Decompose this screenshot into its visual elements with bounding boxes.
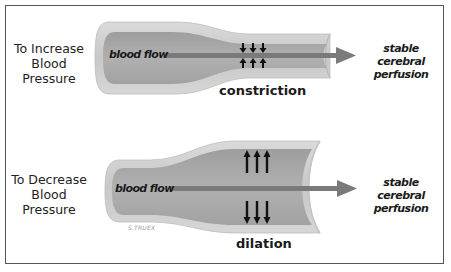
outcome-label-bottom: stable cerebral perfusion <box>358 176 444 215</box>
artist-signature: S.TRUEX <box>128 224 155 231</box>
constriction-label: constriction <box>219 83 306 98</box>
label-line: To Decrease <box>4 172 94 187</box>
dilation-arrows-up <box>244 150 271 173</box>
label-line: To Increase <box>4 41 94 56</box>
outcome-line: perfusion <box>358 68 444 81</box>
dilation-arrows-down <box>244 201 271 224</box>
outcome-line: stable cerebral <box>358 42 444 68</box>
constriction-arrows-up <box>240 58 267 68</box>
outcome-line: stable cerebral <box>358 176 444 202</box>
flow-arrow-head <box>336 47 356 64</box>
dilation-label: dilation <box>236 236 292 251</box>
outcome-line: perfusion <box>358 202 444 215</box>
label-line: Pressure <box>4 202 94 217</box>
blood-flow-label-bottom: blood flow <box>115 182 174 195</box>
flow-arrow-shaft <box>165 53 337 58</box>
flow-arrow-head <box>337 180 357 197</box>
outcome-label-top: stable cerebral perfusion <box>358 42 444 81</box>
blood-flow-label-top: blood flow <box>109 48 168 61</box>
label-line: Pressure <box>4 71 94 86</box>
constriction-arrows-down <box>240 43 267 53</box>
increase-bp-label: To Increase Blood Pressure <box>4 41 94 86</box>
label-line: Blood <box>4 56 94 71</box>
decrease-bp-label: To Decrease Blood Pressure <box>4 172 94 217</box>
label-line: Blood <box>4 187 94 202</box>
flow-arrow-shaft <box>170 186 338 191</box>
